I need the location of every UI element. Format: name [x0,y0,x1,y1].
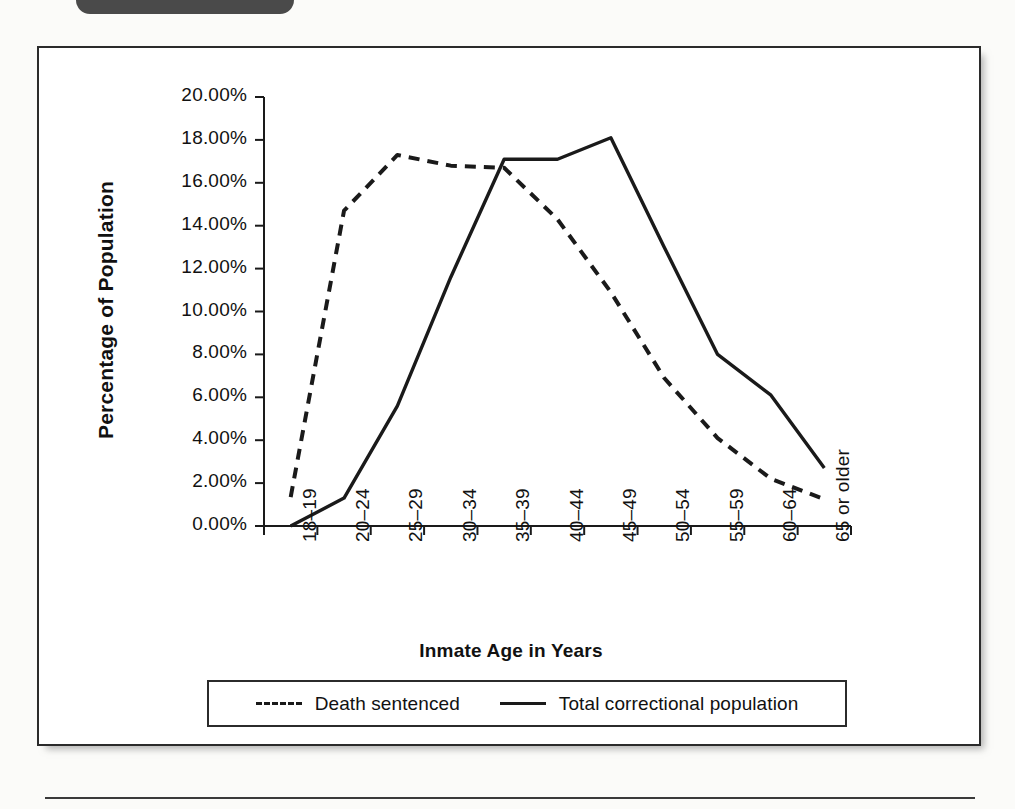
y-axis-tick-label: 16.00% [137,170,247,192]
series-line [291,138,825,526]
x-axis-title: Inmate Age in Years [39,640,983,662]
y-axis-tick-label: 10.00% [137,299,247,321]
chart-legend: Death sentenced Total correctional popul… [207,680,847,727]
x-axis-tick-label: 18–19 [299,488,321,542]
line-chart: 20.00%18.00%16.00%14.00%12.00%10.00%8.00… [39,48,983,748]
y-axis-tick-label: 12.00% [137,256,247,278]
x-axis-tick-label: 50–54 [672,488,694,542]
x-axis-tick-label: 45–49 [619,488,641,542]
y-axis-tick-label: 18.00% [137,127,247,149]
figure-frame: 20.00%18.00%16.00%14.00%12.00%10.00%8.00… [37,46,981,746]
page-footer-rule [45,797,975,799]
y-axis-tick-label: 4.00% [137,427,247,449]
y-axis-tick-label: 6.00% [137,384,247,406]
y-axis-tick-label: 20.00% [137,84,247,106]
y-axis-tick-label: 14.00% [137,213,247,235]
y-axis-title: Percentage of Population [94,180,118,440]
x-axis-tick-label: 25–29 [405,488,427,542]
legend-item-total-correctional-population: Total correctional population [500,693,799,715]
data-series-layer [291,138,825,526]
y-axis-tick-label: 8.00% [137,341,247,363]
y-axis-tick-label: 2.00% [137,470,247,492]
legend-item-death-sentenced: Death sentenced [256,693,460,715]
y-axis-ticks [255,97,264,526]
x-axis-tick-label: 30–34 [459,488,481,542]
x-axis-tick-label: 60–64 [779,488,801,542]
x-axis-tick-label: 65 or older [832,449,854,542]
running-head-text [300,0,990,7]
x-axis-tick-label: 35–39 [512,488,534,542]
y-axis-tick-label: 0.00% [137,513,247,535]
legend-label: Total correctional population [559,693,799,715]
chapter-tab-badge [76,0,294,14]
solid-line-icon [500,702,546,705]
x-axis-tick-label: 20–24 [352,488,374,542]
x-axis-tick-label: 40–44 [566,488,588,542]
series-line [291,155,825,499]
x-axis-tick-label: 55–59 [726,488,748,542]
legend-label: Death sentenced [315,693,460,715]
dashed-line-icon [256,702,302,705]
